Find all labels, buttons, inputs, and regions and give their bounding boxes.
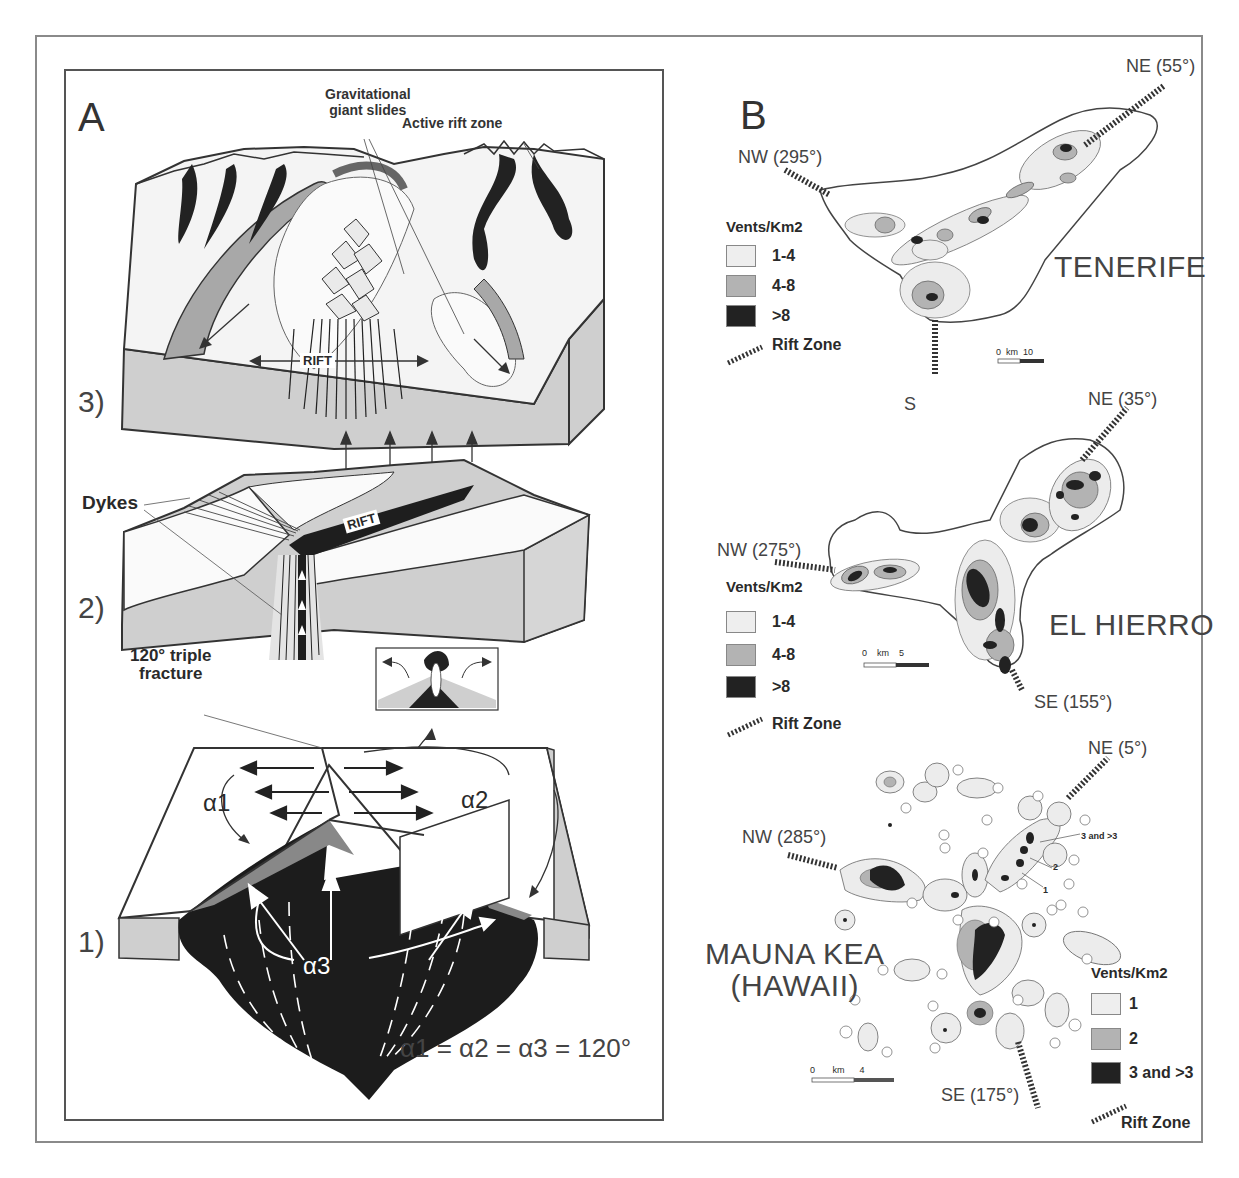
elhierro-legend: Vents/Km2 1-4 4-8 >8 Rift Zone [726,578,866,728]
contour-label-1: 1 [1043,885,1048,895]
label-gravitational-slides: Gravitational giant slides [325,86,411,118]
step-2-label: 2) [78,591,105,625]
maunakea-rift-se: SE (175°) [941,1085,1019,1106]
label-active-rift-zone: Active rift zone [402,115,502,131]
label-triple-fracture: 120° triple fracture [130,647,211,683]
elhierro-rift-nw: NW (275°) [717,540,801,561]
maunakea-rift-ne: NE (5°) [1088,738,1147,759]
elhierro-scale: 0 km 5 [862,648,904,658]
label-alpha2: α2 [461,786,488,814]
maunakea-scale: 0 km 4 [810,1065,865,1075]
stage-2-diagram [64,400,664,660]
maunakea-name: MAUNA KEA (HAWAII) [705,938,885,1002]
tenerife-scale: 0 km 10 [996,347,1033,357]
elhierro-rift-ne: NE (35°) [1088,389,1157,410]
label-alpha1: α1 [203,789,230,817]
tenerife-rift-nw: NW (295°) [738,147,822,168]
tenerife-legend: Vents/Km2 1-4 4-8 >8 Rift Zone [726,218,866,348]
tenerife-name: TENERIFE [1054,250,1206,284]
maunakea-rift-nw: NW (285°) [742,827,826,848]
tenerife-rift-ne: NE (55°) [1126,56,1195,77]
elhierro-rift-se: SE (155°) [1034,692,1112,713]
maunakea-legend: Vents/Km2 1 2 3 and >3 Rift Zone [1091,964,1211,1134]
label-dykes: Dykes [82,492,138,514]
contour-label-3: 3 and >3 [1081,831,1117,841]
elhierro-name: EL HIERRO [1049,608,1214,642]
contour-label-2: 2 [1053,862,1058,872]
label-alpha3: α3 [303,952,330,980]
alpha-equation: α1 = α2 = α3 = 120° [400,1033,631,1064]
label-rift-3: RIFT [300,353,335,368]
step-1-label: 1) [78,925,105,959]
